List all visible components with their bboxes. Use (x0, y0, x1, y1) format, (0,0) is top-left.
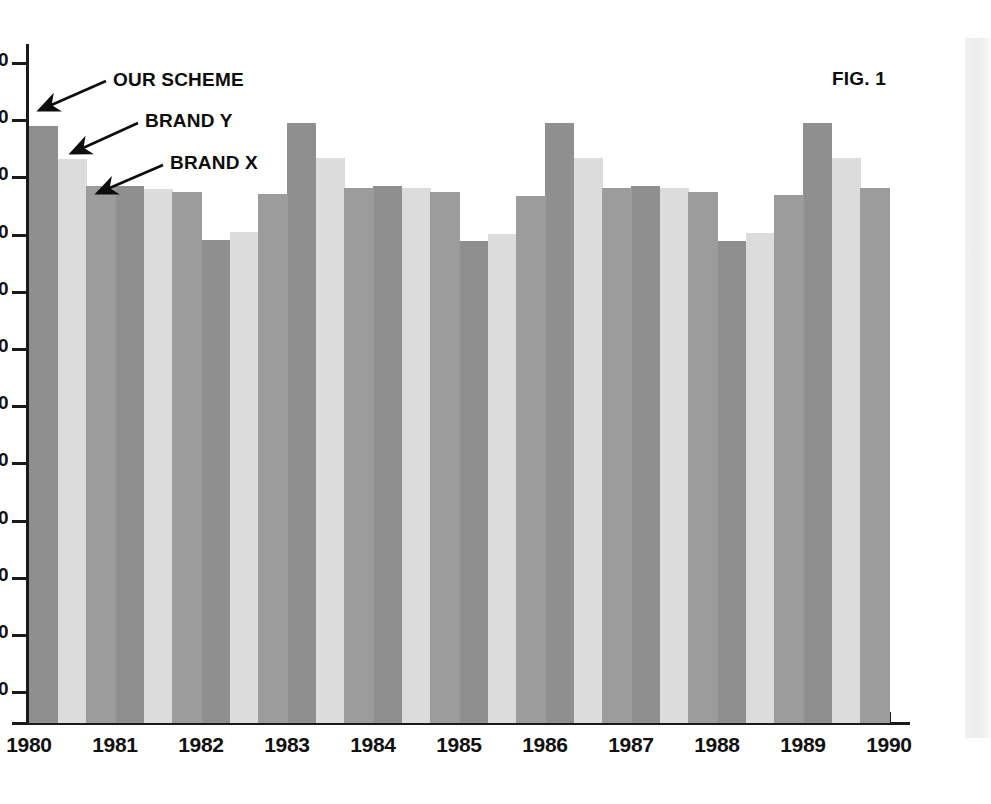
bar-brand-x-1983 (344, 188, 373, 723)
y-axis-tick-label-10: 0 (0, 621, 8, 643)
x-axis-label-1981: 1981 (92, 733, 138, 757)
figure-number-label: FIG. 1 (832, 68, 886, 90)
bar-brand-y-1980 (58, 159, 87, 723)
bar-our-scheme-1989 (803, 123, 832, 723)
bar-brand-x-1988 (774, 195, 803, 723)
x-axis-label-1989: 1989 (780, 733, 826, 757)
bar-brand-x-1986 (602, 188, 631, 723)
annotation-label-brand-y: BRAND Y (145, 110, 233, 132)
bar-our-scheme-1983 (287, 123, 316, 723)
bar-our-scheme-1986 (545, 123, 574, 723)
bar-our-scheme-1982 (201, 240, 230, 723)
y-axis-tick-0 (12, 62, 26, 65)
x-axis-label-1983: 1983 (264, 733, 310, 757)
bar-brand-x-1984 (430, 192, 459, 723)
y-axis-tick-label-9: 0 (0, 564, 8, 586)
bar-our-scheme-1988 (717, 241, 746, 723)
y-axis-tick-3 (12, 234, 26, 237)
y-axis-tick-label-1: 0 (0, 106, 8, 128)
x-axis-label-1984: 1984 (350, 733, 396, 757)
bar-brand-y-1982 (230, 232, 259, 723)
bar-brand-x-1981 (172, 192, 201, 723)
bar-brand-y-1981 (144, 189, 173, 723)
y-axis-tick-label-5: 0 (0, 335, 8, 357)
bar-brand-x-1987 (688, 192, 717, 723)
y-axis-tick-9 (12, 577, 26, 580)
y-axis-tick-2 (12, 176, 26, 179)
x-axis-label-1987: 1987 (608, 733, 654, 757)
y-axis-tick-11 (12, 691, 26, 694)
bar-brand-x-1989 (860, 188, 889, 723)
bar-brand-y-1989 (832, 158, 861, 723)
y-axis-tick-label-8: 0 (0, 507, 8, 529)
bar-brand-y-1984 (402, 188, 431, 723)
bar-brand-y-1988 (746, 233, 775, 723)
y-axis-tick-8 (12, 520, 26, 523)
bar-brand-y-1987 (660, 188, 689, 723)
bar-our-scheme-1980 (29, 126, 58, 723)
y-axis-tick-6 (12, 405, 26, 408)
annotation-label-our-scheme: OUR SCHEME (113, 69, 244, 91)
y-axis-tick-4 (12, 291, 26, 294)
y-axis-tick-label-4: 0 (0, 278, 8, 300)
x-axis-label-1990: 1990 (866, 733, 912, 757)
annotation-label-brand-x: BRAND X (170, 152, 258, 174)
plot-area (29, 44, 889, 723)
y-axis-tick-label-6: 0 (0, 392, 8, 414)
y-axis-tick-label-7: 0 (0, 449, 8, 471)
bar-our-scheme-1984 (373, 186, 402, 723)
x-axis-label-1980: 1980 (6, 733, 52, 757)
y-axis-tick-label-3: 0 (0, 221, 8, 243)
x-axis-label-1986: 1986 (522, 733, 568, 757)
x-axis-label-1988: 1988 (694, 733, 740, 757)
bar-brand-y-1983 (316, 158, 345, 723)
y-axis-tick-10 (12, 634, 26, 637)
y-axis-tick-label-2: 0 (0, 163, 8, 185)
bar-brand-x-1982 (258, 194, 287, 723)
y-axis-tick-label-11: 0 (0, 678, 8, 700)
y-axis-tick-7 (12, 462, 26, 465)
patent-figure-bar-chart: 000000000000 198019811982198319841985198… (0, 0, 991, 804)
y-axis-tick-1 (12, 119, 26, 122)
bar-our-scheme-1981 (115, 186, 144, 723)
y-axis-tick-label-0: 0 (0, 49, 8, 71)
y-axis-tick-5 (12, 348, 26, 351)
bar-brand-x-1985 (516, 196, 545, 723)
bar-our-scheme-1987 (631, 186, 660, 723)
bar-our-scheme-1985 (459, 241, 488, 723)
bar-brand-y-1985 (488, 234, 517, 723)
x-axis-label-1982: 1982 (178, 733, 224, 757)
x-axis-label-1985: 1985 (436, 733, 482, 757)
bar-brand-x-1980 (86, 186, 115, 723)
bar-brand-y-1986 (574, 158, 603, 723)
